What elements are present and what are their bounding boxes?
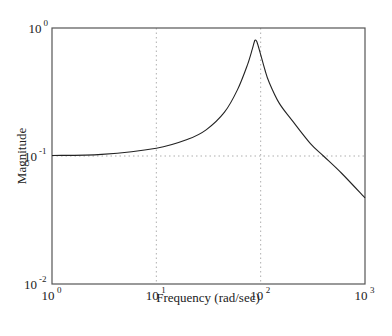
axis-ticks: 10010110210310010-110-2 bbox=[24, 18, 375, 303]
x-axis-label: Frequency (rad/sec) bbox=[156, 290, 260, 305]
x-tick-exponent: 3 bbox=[370, 285, 375, 295]
x-tick-exponent: 0 bbox=[57, 285, 62, 295]
y-tick-exponent: -2 bbox=[39, 274, 47, 284]
grid-lines bbox=[52, 28, 365, 284]
x-tick-label: 10 bbox=[355, 288, 368, 303]
y-tick-exponent: -1 bbox=[39, 146, 47, 156]
x-tick-exponent: 2 bbox=[266, 285, 271, 295]
magnitude-curve bbox=[52, 40, 365, 198]
y-tick-label: 10 bbox=[29, 21, 42, 36]
y-tick-exponent: 0 bbox=[44, 18, 49, 28]
y-tick-label: 10 bbox=[24, 277, 37, 292]
y-axis-label: Magnitude bbox=[14, 128, 29, 185]
x-tick-label: 10 bbox=[42, 288, 55, 303]
bode-magnitude-chart: 10010110210310010-110-2 Frequency (rad/s… bbox=[0, 0, 392, 336]
